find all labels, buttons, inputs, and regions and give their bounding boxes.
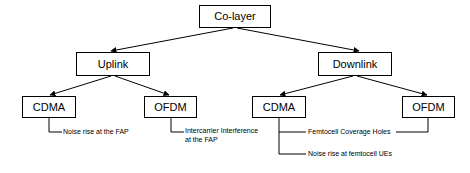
edge-ul-cdma-to-leaf — [49, 118, 62, 132]
node-uplink[interactable]: Uplink — [76, 52, 150, 76]
leaf-uplink-ofdm-intercarrier-interference: Intercarrier Interference at the FAP — [185, 127, 258, 145]
leaf-downlink-femtocell-coverage-holes: Femtocell Coverage Holes — [308, 128, 390, 137]
node-downlink-label: Downlink — [333, 59, 378, 70]
edge-uplink-to-cdma — [50, 76, 111, 95]
node-downlink-ofdm[interactable]: OFDM — [402, 96, 455, 118]
edge-uplink-to-ofdm — [115, 76, 169, 95]
diagram-canvas: Co-layer Uplink Downlink CDMA OFDM CDMA … — [0, 0, 470, 173]
node-uplink-label: Uplink — [98, 59, 129, 70]
node-downlink-cdma-label: CDMA — [263, 102, 295, 113]
edge-downlink-to-cdma — [280, 76, 353, 95]
edge-root-to-uplink — [111, 28, 233, 51]
leaf-uplink-cdma-noise-rise: Noise rise at the FAP — [63, 128, 129, 137]
node-downlink[interactable]: Downlink — [318, 52, 392, 76]
node-downlink-cdma[interactable]: CDMA — [252, 96, 306, 118]
node-uplink-cdma[interactable]: CDMA — [22, 96, 76, 118]
node-uplink-ofdm-label: OFDM — [154, 102, 186, 113]
node-uplink-ofdm[interactable]: OFDM — [144, 96, 197, 118]
node-co-layer-label: Co-layer — [214, 11, 256, 22]
node-co-layer[interactable]: Co-layer — [199, 5, 271, 28]
node-uplink-cdma-label: CDMA — [33, 102, 65, 113]
edge-ul-ofdm-to-leaf — [171, 118, 184, 132]
edge-root-to-downlink — [237, 28, 359, 51]
edge-dl-ofdm-to-coverage-holes — [396, 118, 428, 132]
node-downlink-ofdm-label: OFDM — [412, 102, 444, 113]
leaf-downlink-cdma-noise-rise: Noise rise at femtocell UEs — [308, 150, 392, 159]
edge-downlink-to-ofdm — [357, 76, 427, 95]
